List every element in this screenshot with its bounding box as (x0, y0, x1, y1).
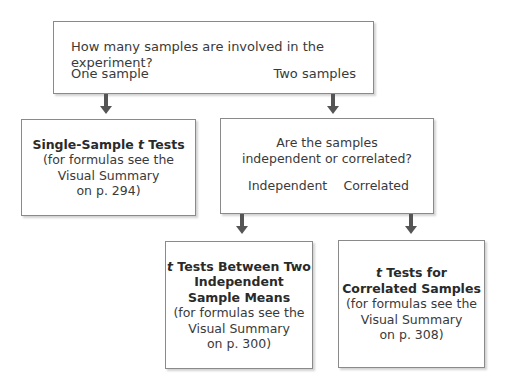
formula-ref-line3: on p. 308) (379, 327, 443, 343)
formula-ref-line2: Visual Summary (58, 168, 160, 184)
formula-ref-line2: Visual Summary (188, 321, 290, 337)
independent-title-line3: Sample Means (188, 290, 290, 306)
option-two-samples: Two samples (273, 66, 356, 82)
option-independent: Independent (248, 178, 327, 194)
result-box-correlated-samples: t Tests for Correlated Samples (for form… (338, 240, 485, 368)
formula-ref-line1: (for formulas see the (346, 296, 477, 312)
independent-title-line2: Independent (194, 274, 284, 290)
option-one-sample: One sample (71, 66, 149, 82)
correlated-title-line2: Correlated Samples (342, 281, 481, 297)
formula-ref-line1: (for formulas see the (43, 152, 174, 168)
formula-ref-line2: Visual Summary (361, 312, 463, 328)
question-independence-line2: independent or correlated? (242, 151, 412, 167)
formula-ref-line3: on p. 300) (207, 336, 271, 352)
single-sample-title: Single-Sample t Tests (32, 137, 184, 153)
result-box-single-sample: Single-Sample t Tests (for formulas see … (21, 119, 196, 216)
option-correlated: Correlated (343, 178, 409, 194)
question-box-sample-count: How many samples are involved in the exp… (53, 21, 374, 94)
formula-ref-line3: on p. 294) (76, 183, 140, 199)
correlated-title-line1: t Tests for (376, 265, 447, 281)
question-independence-line1: Are the samples (276, 135, 378, 151)
formula-ref-line1: (for formulas see the (173, 305, 304, 321)
independent-title-line1: t Tests Between Two (167, 259, 311, 275)
question-box-independence: Are the samples independent or correlate… (220, 118, 434, 214)
result-box-independent-samples: t Tests Between Two Independent Sample M… (165, 241, 313, 369)
